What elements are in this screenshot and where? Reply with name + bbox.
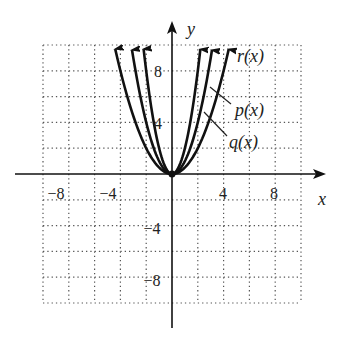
x-tick-label: 4 [219, 185, 227, 202]
x-tick-label: 8 [270, 185, 278, 202]
y-tick-label: 8 [154, 63, 162, 80]
y-tick-label: −8 [143, 272, 160, 289]
y-tick-label: −4 [143, 220, 160, 237]
origin-vertex [169, 171, 176, 178]
parabola-chart: −8 −4 4 8 8 4 −4 −8 x y r(x) p(x) q(x) [0, 0, 343, 338]
y-axis-label: y [185, 19, 195, 39]
r-function-label: r(x) [237, 46, 264, 67]
x-axis-label: x [317, 189, 326, 209]
p-leader-line [210, 87, 231, 104]
x-tick-label: −8 [47, 185, 64, 202]
q-function-label: q(x) [229, 132, 258, 153]
x-tick-label: −4 [99, 185, 116, 202]
p-function-label: p(x) [233, 100, 264, 121]
y-tick-label: 4 [154, 115, 162, 132]
